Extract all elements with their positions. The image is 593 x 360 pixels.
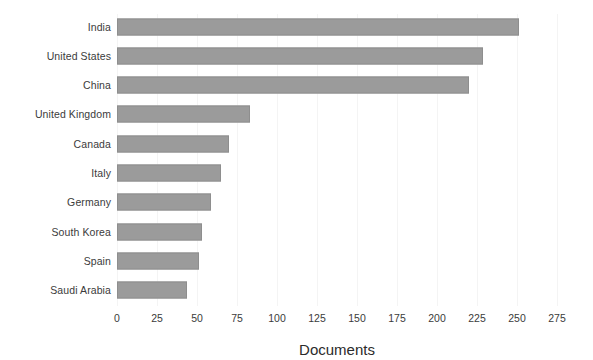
x-axis-tick-label: 225 (468, 312, 486, 324)
x-axis-tick-label: 250 (508, 312, 526, 324)
bar (117, 282, 187, 299)
bar (117, 252, 199, 269)
x-axis-title: Documents (117, 341, 557, 358)
bar (117, 194, 211, 211)
y-axis-tick-label: Germany (67, 196, 111, 208)
y-axis-tick-label: India (88, 21, 111, 33)
bar-row: United Kingdom (0, 100, 593, 129)
x-axis-tick-label: 175 (388, 312, 406, 324)
bar (117, 165, 221, 182)
x-axis-ticks: 0255075100125150175200225250275 (0, 312, 593, 332)
bar-row: Italy (0, 159, 593, 188)
bar (117, 18, 519, 35)
bar-row: Saudi Arabia (0, 276, 593, 305)
bar-row: Spain (0, 246, 593, 275)
bar (117, 47, 483, 64)
bar-chart-figure: IndiaUnited StatesChinaUnited KingdomCan… (0, 0, 593, 360)
x-axis-tick-label: 50 (191, 312, 203, 324)
bar (117, 223, 202, 240)
bar (117, 135, 229, 152)
y-axis-tick-label: Spain (84, 255, 111, 267)
bar (117, 77, 469, 94)
x-axis-tick-label: 100 (268, 312, 286, 324)
y-axis-tick-label: United States (47, 50, 111, 62)
x-axis-tick-label: 275 (548, 312, 566, 324)
y-axis-tick-label: United Kingdom (35, 108, 111, 120)
x-axis-tick-label: 0 (114, 312, 120, 324)
plot-area: IndiaUnited StatesChinaUnited KingdomCan… (0, 0, 593, 312)
bar (117, 106, 250, 123)
bar-row: Germany (0, 188, 593, 217)
y-axis-tick-label: China (83, 79, 111, 91)
bar-row: China (0, 71, 593, 100)
x-axis-tick-label: 150 (348, 312, 366, 324)
bar-row: India (0, 12, 593, 41)
y-axis-tick-label: South Korea (52, 226, 111, 238)
y-axis-tick-label: Italy (91, 167, 111, 179)
bar-row: South Korea (0, 217, 593, 246)
x-axis-tick-label: 75 (231, 312, 243, 324)
y-axis-tick-label: Canada (74, 138, 111, 150)
y-axis-tick-label: Saudi Arabia (50, 284, 111, 296)
bar-row: United States (0, 41, 593, 70)
x-axis-tick-label: 25 (151, 312, 163, 324)
x-axis-tick-label: 200 (428, 312, 446, 324)
bar-row: Canada (0, 129, 593, 158)
x-axis-tick-label: 125 (308, 312, 326, 324)
